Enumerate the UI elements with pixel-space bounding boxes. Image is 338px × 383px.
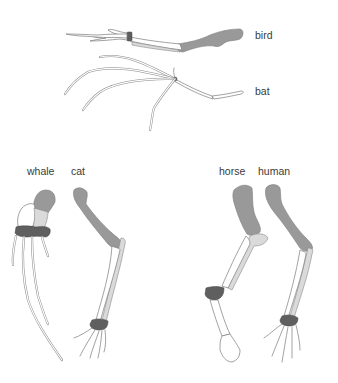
human-carpals	[280, 315, 298, 326]
human-digit-3	[282, 327, 288, 362]
human-thumb	[264, 324, 282, 338]
homologous-limbs-figure: bird bat whale cat horse human	[0, 0, 338, 383]
whale-flipper	[13, 190, 62, 360]
human-humerus	[265, 185, 312, 252]
horse-forelimb	[205, 185, 268, 362]
bat-forearm	[174, 79, 213, 99]
cat-forelimb	[73, 188, 125, 358]
label-whale: whale	[27, 166, 54, 177]
whale-radius	[33, 208, 48, 229]
cat-digit-3	[90, 331, 99, 358]
limb-drawings	[0, 0, 338, 383]
bird-humerus	[177, 29, 243, 52]
bat-digit-5	[150, 79, 175, 130]
whale-carpals	[15, 226, 50, 237]
cat-digit-5	[104, 330, 106, 352]
horse-carpals	[205, 287, 224, 301]
whale-digit-2	[23, 237, 62, 360]
horse-hoof	[220, 334, 240, 362]
cat-digit-4	[98, 331, 102, 358]
human-arm	[264, 185, 313, 362]
cat-carpals	[90, 319, 108, 330]
whale-ulna	[18, 204, 36, 228]
bird-carpals	[127, 32, 132, 41]
label-bird: bird	[255, 30, 273, 41]
bird-wing	[66, 29, 243, 52]
label-human: human	[258, 166, 290, 177]
label-bat: bat	[255, 86, 270, 97]
bat-wing	[65, 56, 243, 130]
horse-cannon	[210, 300, 230, 336]
cat-digit-1	[74, 328, 92, 338]
cat-humerus	[73, 188, 122, 248]
horse-humerus	[233, 185, 260, 235]
bat-digit-3	[65, 68, 175, 94]
label-horse: horse	[219, 166, 245, 177]
label-cat: cat	[71, 166, 85, 177]
bat-humerus	[212, 91, 243, 99]
human-digit-5	[296, 325, 300, 350]
